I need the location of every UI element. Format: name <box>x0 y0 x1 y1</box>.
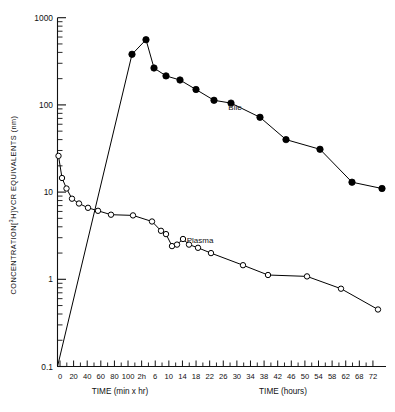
x-tick-label: 26 <box>219 372 227 381</box>
y-tick-label: 100 <box>39 100 53 110</box>
data-point <box>95 208 100 213</box>
data-point <box>257 114 263 120</box>
axes <box>58 18 387 367</box>
data-point <box>283 136 289 142</box>
x-axis-right-title: TIME (hours) <box>259 387 307 396</box>
data-point <box>149 219 154 224</box>
data-point <box>304 274 309 279</box>
x-tick-label: 80 <box>110 372 118 381</box>
x-tick-label: 60 <box>97 372 105 381</box>
figure-root: 10001001010.10204060801002h6101418222630… <box>0 0 395 412</box>
y-tick-label: 1000 <box>34 13 53 23</box>
data-point <box>177 77 183 83</box>
y-axis-ticks: 10001001010.1 <box>34 13 66 372</box>
series-line <box>59 156 379 310</box>
x-tick-label: 68 <box>355 372 363 381</box>
data-point <box>130 213 135 218</box>
data-point <box>265 272 270 277</box>
data-point <box>143 37 149 43</box>
data-point <box>174 242 179 247</box>
data-point <box>56 153 61 158</box>
x-tick-label: 72 <box>369 372 377 381</box>
data-point <box>317 146 323 152</box>
x-tick-label: 2h <box>137 372 145 381</box>
x-tick-label: 50 <box>301 372 309 381</box>
y-tick-label: 10 <box>44 187 54 197</box>
x-axis-left-title: TIME (min x hr) <box>92 387 149 396</box>
data-point <box>163 73 169 79</box>
x-tick-label: 54 <box>314 372 322 381</box>
x-tick-label: 58 <box>328 372 336 381</box>
data-point <box>240 263 245 268</box>
data-point <box>69 196 74 201</box>
data-point <box>349 179 355 185</box>
x-tick-label: 20 <box>69 372 77 381</box>
x-tick-label: 0 <box>58 372 62 381</box>
x-axis-ticks: 0204060801002h61014182226303438424650545… <box>58 361 377 381</box>
data-point <box>151 65 157 71</box>
y-axis-title: CONCENTRATION[3H]VCR EQUIVALENTS (nm) <box>8 115 18 294</box>
data-point <box>211 97 217 103</box>
x-tick-label: 6 <box>153 372 157 381</box>
data-point <box>59 175 64 180</box>
x-tick-label: 14 <box>178 372 186 381</box>
data-point <box>208 250 213 255</box>
data-point <box>163 231 168 236</box>
series-line <box>58 40 383 367</box>
data-point <box>129 51 135 57</box>
x-tick-label: 30 <box>233 372 241 381</box>
concentration-vs-time-chart: 10001001010.10204060801002h6101418222630… <box>0 0 395 412</box>
data-point <box>108 212 113 217</box>
x-tick-label: 40 <box>83 372 91 381</box>
data-point <box>180 236 185 241</box>
data-point <box>379 185 385 191</box>
x-tick-label: 22 <box>205 372 213 381</box>
data-point <box>193 86 199 92</box>
x-tick-label: 18 <box>192 372 200 381</box>
data-point <box>375 307 380 312</box>
y-tick-label: 0.1 <box>41 362 53 372</box>
series-bile <box>58 37 386 367</box>
axis-titles: TIME (min x hr)TIME (hours)CONCENTRATION… <box>8 115 307 395</box>
data-point <box>85 205 90 210</box>
data-point <box>76 201 81 206</box>
x-tick-label: 42 <box>273 372 281 381</box>
series-label-bile: Bile <box>228 103 242 112</box>
series-label-plasma: Plasma <box>187 236 214 245</box>
series-plasma <box>56 153 381 312</box>
x-tick-label: 10 <box>165 372 173 381</box>
data-point <box>158 228 163 233</box>
x-tick-label: 46 <box>287 372 295 381</box>
series-annotations: BilePlasma <box>187 103 243 245</box>
x-tick-label: 100 <box>122 372 135 381</box>
data-point <box>195 245 200 250</box>
data-point <box>64 186 69 191</box>
y-tick-label: 1 <box>48 274 53 284</box>
data-point <box>338 286 343 291</box>
x-tick-label: 34 <box>246 372 254 381</box>
x-tick-label: 38 <box>260 372 268 381</box>
x-tick-label: 62 <box>341 372 349 381</box>
